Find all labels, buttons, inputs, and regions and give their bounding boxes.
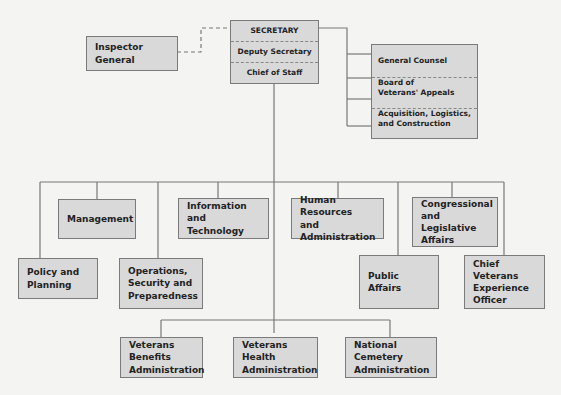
chief-veterans-experience-box: Chief Veterans Experience Officer: [464, 255, 545, 309]
policy-planning-box: Policy and Planning: [18, 258, 98, 299]
public-affairs-box: Public Affairs: [359, 255, 439, 309]
vba-label-2: Administration: [129, 364, 194, 376]
nca-label-1: National Cemetery: [354, 339, 428, 363]
cla-label-2: and Legislative: [421, 210, 489, 234]
pp-label-2: Planning: [27, 279, 89, 291]
osp-label-3: Preparedness: [128, 290, 194, 302]
vha-label-2: Administration: [242, 364, 309, 376]
hr-label-1: Human Resources: [300, 194, 375, 218]
operations-security-box: Operations, Security and Preparedness: [119, 258, 203, 309]
chief-of-staff-label: Chief of Staff: [231, 63, 318, 83]
it-label-2: and Technology: [187, 212, 260, 236]
information-technology-box: Information and Technology: [178, 198, 269, 239]
cveo-label-3: Officer: [473, 294, 536, 306]
osp-label-1: Operations,: [128, 265, 194, 277]
cveo-label-1: Chief Veterans: [473, 258, 536, 282]
congressional-legislative-box: Congressional and Legislative Affairs: [412, 197, 498, 247]
human-resources-box: Human Resources and Administration: [291, 198, 384, 239]
it-label-1: Information: [187, 200, 260, 212]
management-label: Management: [67, 213, 127, 225]
vba-label-1: Veterans Benefits: [129, 339, 194, 363]
cla-label-1: Congressional: [421, 198, 489, 210]
secretary-box: SECRETARY Deputy Secretary Chief of Staf…: [230, 20, 319, 84]
board-of-veterans-appeals-label: Board ofVeterans' Appeals: [372, 78, 477, 108]
vha-label-1: Veterans Health: [242, 339, 309, 363]
nca-label-2: Administration: [354, 364, 428, 376]
cveo-label-2: Experience: [473, 282, 536, 294]
public-affairs-label: Public Affairs: [368, 270, 430, 294]
acquisition-logistics-construction-label: Acquisition, Logistics,and Construction: [372, 109, 477, 138]
general-counsel-label: General Counsel: [372, 45, 477, 78]
pp-label-1: Policy and: [27, 266, 89, 278]
inspector-general-label: Inspector General: [95, 41, 169, 65]
inspector-general-box: Inspector General: [86, 36, 178, 71]
management-box: Management: [58, 199, 136, 239]
veterans-health-box: Veterans Health Administration: [233, 337, 318, 378]
deputy-secretary-label: Deputy Secretary: [231, 42, 318, 63]
secretary-label: SECRETARY: [231, 21, 318, 42]
osp-label-2: Security and: [128, 277, 194, 289]
cla-label-3: Affairs: [421, 234, 489, 246]
national-cemetery-box: National Cemetery Administration: [345, 337, 437, 378]
veterans-benefits-box: Veterans Benefits Administration: [120, 337, 203, 378]
staff-offices-box: General Counsel Board ofVeterans' Appeal…: [371, 44, 478, 139]
hr-label-2: and Administration: [300, 219, 375, 243]
